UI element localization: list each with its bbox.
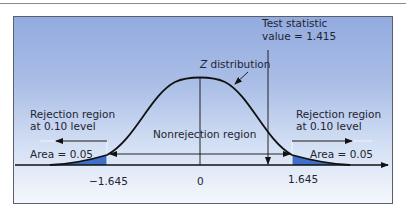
normal-distribution-diagram: Z distribution Test statistic value = 1.…: [0, 0, 406, 213]
left-area-label: Area = 0.05: [30, 148, 93, 160]
test-statistic-label-line1: Test statistic: [261, 17, 328, 29]
left-critical-value-label: −1.645: [89, 175, 128, 187]
test-statistic-label-line2: value = 1.415: [262, 30, 336, 42]
right-rejection-title-line2: at 0.10 level: [296, 120, 362, 132]
left-rejection-title-line1: Rejection region: [30, 108, 115, 120]
right-rejection-title-line1: Rejection region: [296, 108, 381, 120]
z-label-pointer: [235, 72, 248, 84]
right-area-label: Area = 0.05: [310, 148, 373, 160]
center-value-label: 0: [197, 175, 204, 187]
nonrejection-region-label: Nonrejection region: [153, 128, 256, 140]
z-distribution-label: Z distribution: [199, 58, 270, 70]
left-rejection-title-line2: at 0.10 level: [30, 120, 96, 132]
right-critical-value-label: 1.645: [288, 173, 318, 185]
